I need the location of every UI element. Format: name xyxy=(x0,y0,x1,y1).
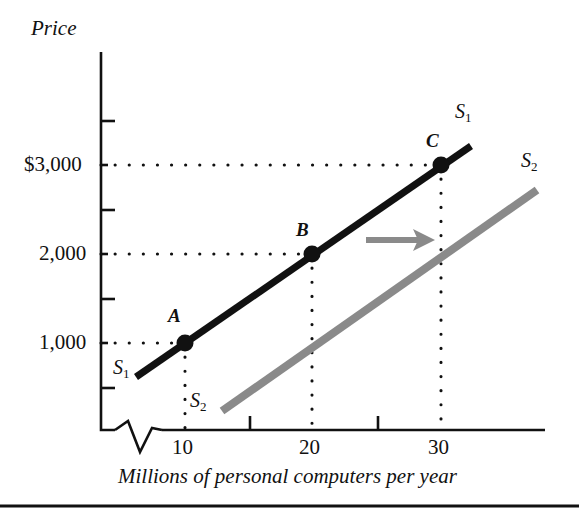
curve-label-s1-lower-base: S xyxy=(113,356,123,378)
x-tick-label-30: 30 xyxy=(428,437,449,458)
curve-label-s1-lower-sub: 1 xyxy=(123,366,130,381)
chart-figure: Price Millions of personal computers per… xyxy=(0,0,579,521)
curve-label-s2-upper-base: S xyxy=(521,149,531,171)
curve-label-s2-lower: S2 xyxy=(190,390,207,410)
curve-label-s1-upper-sub: 1 xyxy=(465,110,472,125)
x-axis-title: Millions of personal computers per year xyxy=(118,466,457,487)
y-axis-ticks xyxy=(101,121,115,388)
data-point-b xyxy=(304,246,321,263)
data-point-c xyxy=(433,157,450,174)
curve-label-s2-lower-sub: 2 xyxy=(200,399,207,414)
supply-shift-arrow-icon xyxy=(366,229,435,251)
x-tick-label-10: 10 xyxy=(172,437,193,458)
x-tick-label-20: 20 xyxy=(299,437,320,458)
axis-break-zigzag xyxy=(115,421,162,452)
curve-label-s1-upper-base: S xyxy=(455,100,465,122)
y-axis-title: Price xyxy=(31,18,76,39)
curve-label-s1-upper: S1 xyxy=(455,101,472,121)
data-point-label-a: A xyxy=(168,306,181,325)
chart-canvas xyxy=(0,0,579,521)
data-point-label-b: B xyxy=(296,220,309,239)
x-axis-ticks xyxy=(250,416,378,430)
y-tick-label-1000: 1,000 xyxy=(39,332,86,353)
curve-label-s2-upper: S2 xyxy=(521,150,538,170)
axis-origin-elbow xyxy=(101,416,115,430)
y-tick-label-3000: $3,000 xyxy=(24,154,82,175)
data-point-label-c: C xyxy=(426,131,439,150)
data-point-a xyxy=(177,335,194,352)
curve-label-s1-lower: S1 xyxy=(113,357,130,377)
y-tick-label-2000: 2,000 xyxy=(39,243,86,264)
curve-label-s2-upper-sub: 2 xyxy=(531,159,538,174)
supply-curve-s2 xyxy=(222,190,537,411)
curve-label-s2-lower-base: S xyxy=(190,389,200,411)
